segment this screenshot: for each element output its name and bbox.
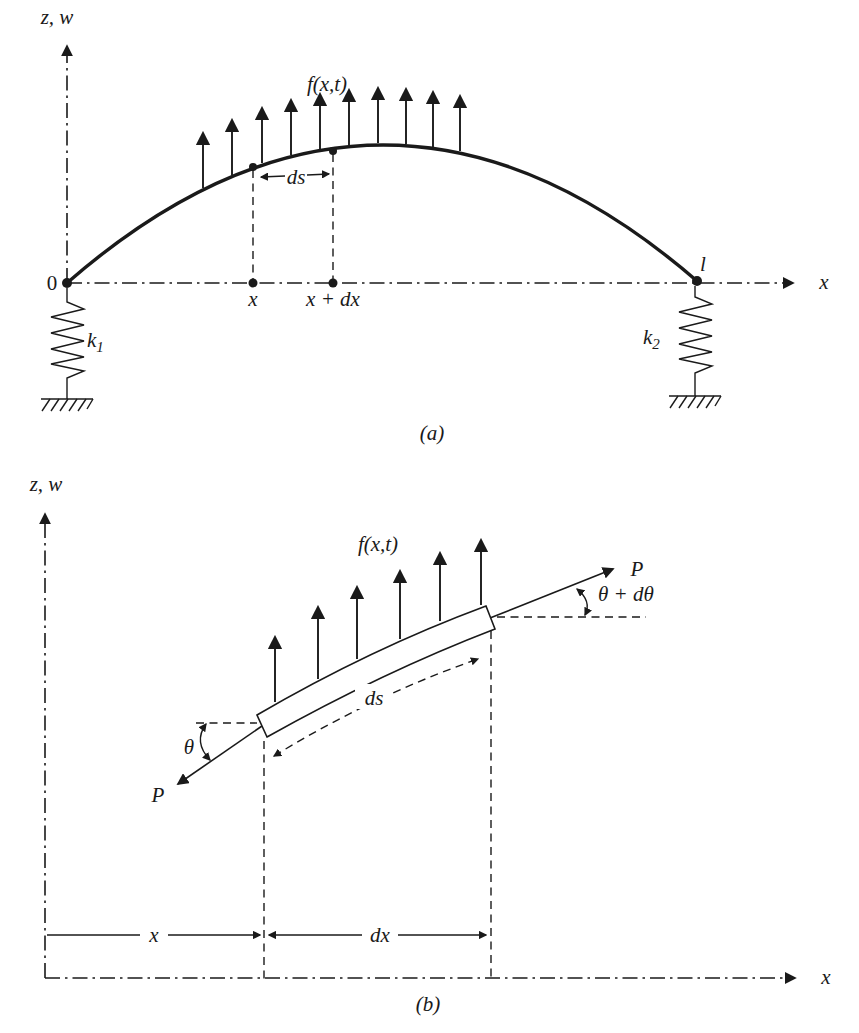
b-load-label: f(x,t) bbox=[358, 532, 398, 556]
tension-upper-label: P bbox=[630, 557, 644, 581]
end-dot bbox=[692, 276, 702, 286]
dim-dx-label: dx bbox=[370, 923, 391, 947]
string-vibration-figure: z, w x 0 f(x,t) ds x x + dx l k1 k2 (a) bbox=[0, 0, 859, 1033]
string-curve bbox=[67, 145, 697, 283]
part-a-diagram: z, w x 0 f(x,t) ds x x + dx l k1 k2 (a) bbox=[40, 5, 830, 445]
a-load-label: f(x,t) bbox=[307, 72, 347, 96]
a-origin-label: 0 bbox=[47, 271, 58, 295]
a-length-label: l bbox=[700, 252, 706, 276]
ground-right bbox=[669, 396, 721, 408]
b-ds-label: ds bbox=[365, 686, 384, 710]
tension-lower-label: P bbox=[151, 783, 165, 807]
b-z-axis-label: z, w bbox=[29, 472, 63, 496]
a-z-axis-label: z, w bbox=[40, 5, 74, 29]
a-ds-label: ds bbox=[287, 165, 306, 189]
a-x-point-label: x bbox=[247, 287, 258, 311]
dim-x-label: x bbox=[148, 923, 159, 947]
element-bar bbox=[257, 606, 495, 737]
tension-upper-arrow bbox=[490, 569, 613, 618]
caption-b: (b) bbox=[416, 992, 441, 1016]
curve-dot-x-dx bbox=[329, 147, 337, 155]
caption-a: (a) bbox=[420, 421, 445, 445]
spring-left-label: k1 bbox=[87, 328, 104, 355]
ds-arrow-right-icon bbox=[307, 174, 329, 175]
theta-dtheta-arc bbox=[577, 589, 587, 615]
ground-left bbox=[41, 399, 93, 411]
part-b-diagram: z, w x f(x,t) P P θ θ + dθ ds x dx (b) bbox=[29, 472, 832, 1016]
theta-dtheta-label: θ + dθ bbox=[598, 582, 654, 606]
spring-right-label: k2 bbox=[643, 325, 660, 352]
a-x-axis-label: x bbox=[818, 270, 829, 294]
curve-dot-x bbox=[249, 163, 257, 171]
ds-arrow-left-icon bbox=[261, 176, 285, 177]
theta-arc bbox=[200, 724, 210, 760]
spring-left bbox=[41, 288, 93, 411]
theta-label: θ bbox=[184, 735, 194, 759]
a-x-dx-point-label: x + dx bbox=[305, 287, 360, 311]
figure-page: z, w x 0 f(x,t) ds x x + dx l k1 k2 (a) bbox=[0, 0, 859, 1033]
spring-right bbox=[669, 286, 721, 408]
origin-dot bbox=[62, 278, 72, 288]
b-x-axis-label: x bbox=[820, 965, 831, 989]
